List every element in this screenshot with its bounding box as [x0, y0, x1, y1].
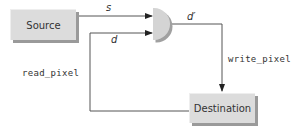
source-label: Source: [26, 20, 60, 31]
edge-label-read-pixel: read_pixel: [22, 68, 79, 78]
source-node: Source: [10, 9, 76, 40]
destination-node: Destination: [189, 93, 255, 123]
destination-label: Destination: [194, 103, 251, 114]
edge-d: [90, 33, 152, 111]
edge-d-prime: [170, 24, 222, 91]
edge-label-d: d: [111, 34, 117, 45]
edge-label-write-pixel: write_pixel: [228, 54, 291, 64]
combiner-gate-icon: [153, 8, 173, 43]
edge-label-d-prime: d′: [187, 11, 196, 22]
diagram-canvas: Source Destination s d d′ read_pixel wri…: [0, 0, 306, 134]
edge-label-s: s: [106, 2, 111, 13]
